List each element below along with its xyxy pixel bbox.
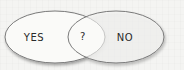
diagram-canvas: YES ? NO — [0, 0, 184, 70]
intersection-label: ? — [80, 32, 86, 42]
set-right-label: NO — [117, 33, 133, 43]
set-left-label: YES — [24, 33, 44, 43]
